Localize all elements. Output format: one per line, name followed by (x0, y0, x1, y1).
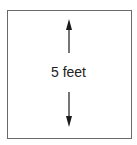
up-arrow-icon (66, 19, 72, 53)
down-arrow-icon (66, 92, 72, 127)
dimension-label: 5 feet (0, 64, 137, 80)
